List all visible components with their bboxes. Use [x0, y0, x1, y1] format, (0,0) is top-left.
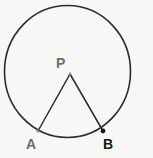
circle-outline — [5, 6, 131, 138]
point-b-marker — [101, 129, 106, 134]
segment-pa — [38, 74, 70, 131]
point-label-p: P — [56, 56, 65, 70]
segment-pb — [70, 74, 103, 131]
point-a-marker — [36, 129, 39, 132]
circle-diagram: P A B — [0, 0, 153, 158]
diagram-canvas — [0, 0, 153, 158]
point-p-marker — [69, 73, 72, 76]
point-label-a: A — [26, 137, 36, 151]
point-label-b: B — [103, 137, 113, 151]
